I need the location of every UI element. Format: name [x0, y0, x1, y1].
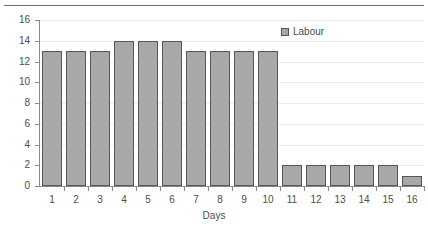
x-axis-label: 9 — [232, 194, 256, 205]
x-axis-label: 14 — [352, 194, 376, 205]
x-axis-label: 2 — [64, 194, 88, 205]
x-axis-tick — [232, 187, 233, 191]
y-axis-tick — [35, 20, 39, 21]
x-axis-tick — [304, 187, 305, 191]
x-axis-tick — [88, 187, 89, 191]
bar — [90, 51, 110, 186]
y-axis-label: 16 — [8, 15, 30, 25]
bar — [138, 41, 158, 186]
y-axis-label: 12 — [8, 57, 30, 67]
y-axis-tick — [35, 41, 39, 42]
x-axis-tick — [280, 187, 281, 191]
y-axis-label: 0 — [8, 181, 30, 191]
x-axis-label: 7 — [184, 194, 208, 205]
y-axis-label: 10 — [8, 77, 30, 87]
x-axis-tick — [112, 187, 113, 191]
bar — [282, 165, 302, 186]
bar — [186, 51, 206, 186]
legend: Labour — [281, 27, 324, 37]
x-axis-tick — [400, 187, 401, 191]
plot-area — [40, 20, 424, 186]
x-axis-label: 6 — [160, 194, 184, 205]
bar — [114, 41, 134, 186]
x-axis-tick — [328, 187, 329, 191]
legend-swatch-labour — [281, 28, 289, 36]
x-axis-label: 15 — [376, 194, 400, 205]
y-axis-label: 8 — [8, 98, 30, 108]
x-axis-tick — [424, 187, 425, 191]
x-axis-label: 5 — [136, 194, 160, 205]
y-axis-tick — [35, 124, 39, 125]
bar — [66, 51, 86, 186]
x-axis-label: 12 — [304, 194, 328, 205]
x-axis-tick — [256, 187, 257, 191]
bar — [378, 165, 398, 186]
bar — [162, 41, 182, 186]
legend-label-labour: Labour — [293, 27, 324, 37]
bar — [306, 165, 326, 186]
y-axis-line — [39, 20, 40, 187]
x-axis-tick — [184, 187, 185, 191]
gridline — [40, 41, 424, 42]
x-axis-label: 10 — [256, 194, 280, 205]
x-axis-tick — [208, 187, 209, 191]
x-axis-tick — [160, 187, 161, 191]
y-axis-label: 2 — [8, 160, 30, 170]
y-axis-label: 14 — [8, 36, 30, 46]
bar — [234, 51, 254, 186]
x-axis-label: 3 — [88, 194, 112, 205]
top-divider-rule — [4, 5, 424, 6]
bar — [42, 51, 62, 186]
bar — [330, 165, 350, 186]
y-axis-label: 6 — [8, 119, 30, 129]
bar — [402, 176, 422, 186]
x-axis-label: 8 — [208, 194, 232, 205]
y-axis-label: 4 — [8, 140, 30, 150]
y-axis-tick — [35, 145, 39, 146]
y-axis-tick — [35, 62, 39, 63]
x-axis-title: Days — [0, 210, 428, 221]
bar — [354, 165, 374, 186]
x-axis-label: 16 — [400, 194, 424, 205]
x-axis-label: 1 — [40, 194, 64, 205]
x-axis-tick — [64, 187, 65, 191]
x-axis-tick — [376, 187, 377, 191]
bar-chart: 0246810121416 12345678910111213141516 Da… — [0, 0, 428, 231]
bar — [258, 51, 278, 186]
y-axis-tick — [35, 165, 39, 166]
x-axis-label: 4 — [112, 194, 136, 205]
y-axis-tick — [35, 103, 39, 104]
bar — [210, 51, 230, 186]
y-axis-tick — [35, 82, 39, 83]
x-axis-tick — [136, 187, 137, 191]
gridline — [40, 20, 424, 21]
x-axis-label: 11 — [280, 194, 304, 205]
x-axis-label: 13 — [328, 194, 352, 205]
x-axis-tick — [352, 187, 353, 191]
y-axis-tick — [35, 186, 39, 187]
